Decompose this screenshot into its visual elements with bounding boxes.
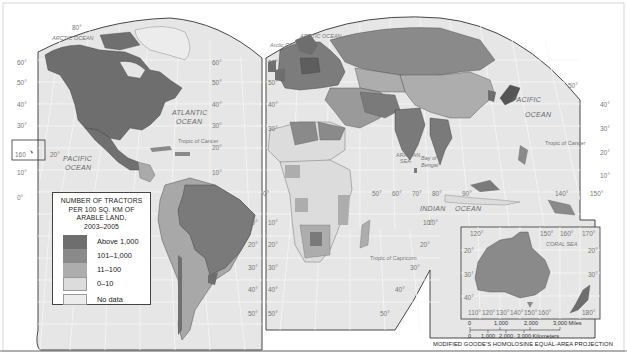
svg-text:20°: 20° <box>600 149 610 156</box>
legend-item-above-1000: Above 1,000 <box>63 235 139 248</box>
legend-swatch <box>63 249 87 263</box>
svg-text:0°: 0° <box>17 194 24 201</box>
scale-miles-1000: 1,000 <box>494 320 508 326</box>
australia-inset: 120° 150° 160° 170° CORAL SEA 20° 30° 40… <box>461 227 600 319</box>
svg-text:30°: 30° <box>410 264 420 271</box>
inset-lon-110: 110° <box>468 309 481 316</box>
inset-lon-180: 180° <box>582 309 596 316</box>
svg-text:60°: 60° <box>17 59 27 66</box>
label-atlantic-ocean: ATLANTIC <box>171 109 208 116</box>
legend-item-no-data: No data <box>63 293 123 306</box>
label-arctic-circle: Arctic Circle <box>269 42 299 48</box>
legend-item-11-100: 11–100 <box>63 263 121 276</box>
label-arctic-ocean-left: ARCTIC OCEAN <box>51 35 94 41</box>
inset-lon-130: 130° <box>496 309 510 316</box>
label-tropic-cancer-right: Tropic of Cancer <box>545 140 586 146</box>
legend: NUMBER OF TRACTORS PER 100 SQ. KM OF ARA… <box>52 192 151 305</box>
inset-lat-30-right: 30° <box>588 271 598 278</box>
inset-lon-150b: 150° <box>524 309 538 316</box>
svg-text:160: 160 <box>15 151 26 158</box>
legend-swatch <box>63 235 87 249</box>
inset-lon-160b: 160° <box>538 309 552 316</box>
scale-miles-2000: 2,000 <box>524 320 538 326</box>
scale-km-3000: 3,000 Kilometers <box>517 333 559 339</box>
svg-text:10°: 10° <box>428 219 438 226</box>
svg-text:30°: 30° <box>248 264 258 271</box>
svg-text:20°: 20° <box>268 241 278 248</box>
inset-lon-170: 170° <box>582 230 596 237</box>
inset-lat-20: 20° <box>464 247 474 254</box>
label-coral-sea: CORAL SEA <box>546 241 578 247</box>
inset-lat-20-right: 20° <box>588 247 598 254</box>
svg-text:40°: 40° <box>600 101 610 108</box>
label-bay-of-bengal: Bay of <box>421 155 437 161</box>
svg-text:20°: 20° <box>212 144 222 151</box>
lat-80: 80° <box>72 24 82 31</box>
svg-text:50°: 50° <box>268 310 278 317</box>
inset-lon-160: 160° <box>560 230 574 237</box>
scale-km-2000: 2,000 <box>499 333 513 339</box>
svg-text:60°: 60° <box>212 59 222 66</box>
label-arctic-ocean-right: ARCTIC OCEAN <box>299 33 342 39</box>
svg-text:10°: 10° <box>600 172 610 179</box>
svg-text:30°: 30° <box>268 264 278 271</box>
svg-text:50°: 50° <box>268 79 278 86</box>
svg-text:10°: 10° <box>248 219 258 226</box>
label-indian-ocean-2: OCEAN <box>455 205 482 212</box>
svg-text:50°: 50° <box>568 82 578 89</box>
legend-item-0-10: 0–10 <box>63 277 113 290</box>
svg-text:50°: 50° <box>17 79 27 86</box>
svg-text:30°: 30° <box>17 122 27 129</box>
inset-lon-120b: 120° <box>482 309 496 316</box>
svg-text:0°: 0° <box>263 190 270 197</box>
svg-text:40°: 40° <box>268 101 278 108</box>
svg-text:40°: 40° <box>268 286 278 293</box>
legend-swatch <box>63 294 87 305</box>
svg-text:20°: 20° <box>50 151 60 158</box>
inset-lon-140: 140° <box>510 309 524 316</box>
svg-text:30°: 30° <box>212 122 222 129</box>
svg-text:80°: 80° <box>432 190 442 197</box>
scale-km-1000: 1,000 <box>481 333 495 339</box>
svg-text:10°: 10° <box>17 169 27 176</box>
label-atlantic-ocean-2: OCEAN <box>176 118 203 125</box>
inset-lon-150: 150° <box>540 230 554 237</box>
svg-text:10°: 10° <box>212 169 222 176</box>
label-bay-of-bengal-2: Bengal <box>421 162 439 168</box>
label-pacific-ocean-left-2: OCEAN <box>65 164 92 171</box>
svg-text:40°: 40° <box>212 101 222 108</box>
svg-text:40°: 40° <box>395 286 405 293</box>
label-pacific-ocean-left: PACIFIC <box>63 155 93 162</box>
legend-swatch <box>63 277 87 291</box>
svg-text:90°: 90° <box>462 190 472 197</box>
label-indian-ocean: INDIAN <box>420 205 446 212</box>
inset-lat-40: 40° <box>464 294 474 301</box>
svg-text:20°: 20° <box>248 241 258 248</box>
scale-miles-3000: 3,000 Miles <box>553 320 582 326</box>
label-tropic-capricorn: Tropic of Capricorn <box>370 255 417 261</box>
svg-text:40°: 40° <box>248 286 258 293</box>
legend-swatch <box>63 263 87 277</box>
svg-text:10°: 10° <box>268 219 278 226</box>
legend-title: NUMBER OF TRACTORS PER 100 SQ. KM OF ARA… <box>53 197 150 231</box>
label-pacific-ocean-right: PACIFIC <box>512 96 542 103</box>
svg-text:50°: 50° <box>212 79 222 86</box>
label-arabian-sea-2: SEA <box>400 158 411 164</box>
svg-text:40°: 40° <box>17 101 27 108</box>
svg-text:30°: 30° <box>600 125 610 132</box>
svg-text:50°: 50° <box>372 190 382 197</box>
svg-text:140°: 140° <box>555 190 569 197</box>
scale-km-0: 0 <box>468 333 471 339</box>
inset-lat-30: 30° <box>464 271 474 278</box>
svg-text:50°: 50° <box>380 310 390 317</box>
svg-text:60°: 60° <box>268 59 278 66</box>
label-pacific-ocean-right-2: OCEAN <box>525 111 552 118</box>
svg-text:150°: 150° <box>590 190 604 197</box>
svg-text:60°: 60° <box>392 190 402 197</box>
inset-lon-120: 120° <box>470 230 484 237</box>
svg-text:50°: 50° <box>248 310 258 317</box>
svg-text:70°: 70° <box>412 190 422 197</box>
svg-text:30°: 30° <box>268 125 278 132</box>
scale-miles-0: 0 <box>468 320 471 326</box>
svg-text:20°: 20° <box>420 241 430 248</box>
